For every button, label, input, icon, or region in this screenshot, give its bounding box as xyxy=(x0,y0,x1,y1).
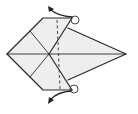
origami-diagram xyxy=(0,0,138,114)
pull-out-arrow-up xyxy=(51,10,72,17)
pull-out-arrow-down xyxy=(51,91,71,99)
arrow-down-head-icon xyxy=(48,97,54,104)
